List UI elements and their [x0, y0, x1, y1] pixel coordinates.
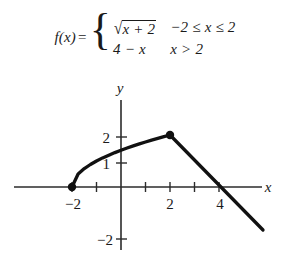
- linear-branch-curve: [170, 135, 263, 230]
- x-tick-label-4: 4: [216, 196, 224, 212]
- formula-expression: f(x)={ √x + 2 −2 ≤ x ≤ 2 4 − x x > 2: [54, 19, 235, 58]
- case-1-expression: √x + 2: [113, 19, 156, 38]
- x-tick-label-2: 2: [166, 196, 174, 212]
- endpoint-dot-left: [68, 183, 76, 191]
- graph-svg: x y −2 2 4 2 1 −2: [0, 70, 290, 257]
- case-1-condition: −2 ≤ x ≤ 2: [170, 19, 235, 38]
- function-notation: f(x): [54, 29, 76, 45]
- x-axis-label: x: [264, 179, 272, 195]
- function-graph: x y −2 2 4 2 1 −2: [0, 70, 290, 257]
- y-tick-label--2: −2: [97, 232, 113, 248]
- y-tick-label-1: 1: [103, 156, 111, 172]
- equals-sign: =: [78, 29, 87, 45]
- case-2-condition: x > 2: [170, 41, 235, 59]
- y-tick-label-2: 2: [103, 130, 111, 146]
- cases-grid: √x + 2 −2 ≤ x ≤ 2 4 − x x > 2: [113, 19, 235, 58]
- piecewise-function-formula: f(x)={ √x + 2 −2 ≤ x ≤ 2 4 − x x > 2: [0, 8, 290, 70]
- x-tick-label--2: −2: [65, 196, 81, 212]
- case-2-expression: 4 − x: [113, 41, 156, 59]
- y-axis-label: y: [115, 80, 124, 96]
- endpoint-dot-peak: [166, 131, 174, 139]
- square-root-icon: √x + 2: [113, 19, 156, 38]
- left-brace: {: [90, 5, 111, 54]
- radicand: x + 2: [122, 20, 157, 39]
